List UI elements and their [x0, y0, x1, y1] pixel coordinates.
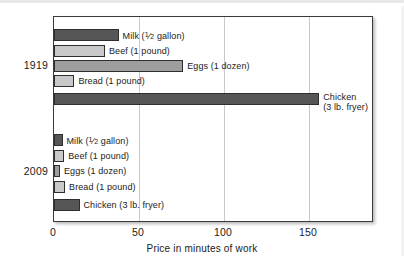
- scan-top-rule: [0, 0, 404, 3]
- bar-2009-beef: [54, 150, 64, 162]
- bar-label-1919-milk: Milk (1⁄2 gallon): [123, 30, 185, 42]
- chart-figure: 1919 2009 Milk (1⁄2 gallon)Beef (1 pound…: [0, 0, 404, 266]
- bar-label-2009-eggs: Eggs (1 dozen): [64, 166, 126, 176]
- bar-2009-eggs: [54, 165, 60, 177]
- x-tick-0: 0: [50, 226, 56, 238]
- x-tick-150: 150: [299, 226, 317, 238]
- x-tick-50: 50: [132, 226, 144, 238]
- bar-label-2009-bread: Bread (1 pound): [69, 182, 136, 192]
- plot-area: Milk (1⁄2 gallon)Beef (1 pound)Eggs (1 d…: [53, 16, 373, 222]
- bar-2009-bread: [54, 181, 65, 193]
- bar-label-1919-chicken: Chicken(3 lb. fryer): [323, 92, 368, 112]
- bar-1919-beef: [54, 45, 105, 57]
- bar-1919-bread: [54, 75, 74, 87]
- gridline-150: [309, 17, 310, 221]
- bar-1919-chicken: [54, 93, 319, 105]
- bar-label-2009-milk: Milk (1⁄2 gallon): [67, 135, 129, 147]
- gridline-100: [224, 17, 225, 221]
- x-axis-title: Price in minutes of work: [0, 243, 404, 254]
- bar-2009-milk: [54, 134, 63, 146]
- bar-label-1919-beef: Beef (1 pound): [109, 46, 170, 56]
- bar-1919-eggs: [54, 60, 183, 72]
- group-label-2009: 2009: [4, 165, 48, 177]
- bar-label-2009-beef: Beef (1 pound): [68, 151, 129, 161]
- bar-1919-milk: [54, 29, 119, 41]
- x-tick-100: 100: [214, 226, 232, 238]
- bar-label-2009-chicken: Chicken (3 lb. fryer): [84, 200, 165, 210]
- plot-inner: Milk (1⁄2 gallon)Beef (1 pound)Eggs (1 d…: [54, 17, 372, 221]
- group-label-1919: 1919: [4, 59, 48, 71]
- bar-2009-chicken: [54, 199, 80, 211]
- bar-label-1919-eggs: Eggs (1 dozen): [187, 61, 249, 71]
- bar-label-1919-bread: Bread (1 pound): [78, 76, 145, 86]
